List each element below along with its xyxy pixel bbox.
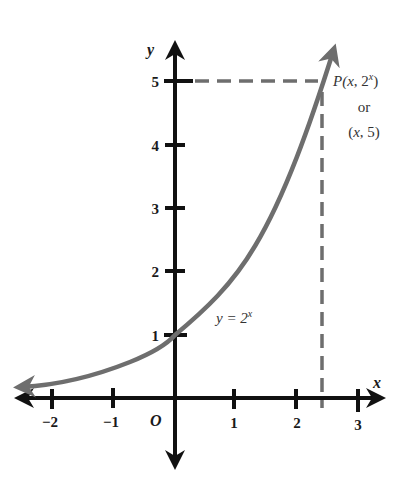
y-tick-labels: 1 2 3 4 5 <box>152 74 160 344</box>
point-label-line2: or <box>358 99 371 115</box>
y-axis-label: y <box>145 41 155 59</box>
y-tick-label: 4 <box>152 138 160 154</box>
y-tick-label: 2 <box>152 264 160 280</box>
x-axis <box>22 388 378 412</box>
x-tick-label: 3 <box>354 417 362 433</box>
x-tick-label: 1 <box>230 415 238 431</box>
x-tick-label: 2 <box>293 415 301 431</box>
x-tick-labels: −2 −1 1 2 3 <box>42 414 362 433</box>
exponential-graph: y x O −2 −1 1 2 3 1 2 3 4 5 y = 2x P(x, … <box>0 0 409 480</box>
y-tick-label: 3 <box>152 201 160 217</box>
y-tick-label: 1 <box>152 328 160 344</box>
x-axis-label: x <box>372 374 381 391</box>
y-ticks <box>164 81 193 335</box>
point-annotation: P(x, 2x) or (x, 5) <box>332 71 380 141</box>
y-tick-label: 5 <box>152 74 160 90</box>
x-tick-label: −2 <box>42 414 58 430</box>
point-label-line3: (x, 5) <box>348 124 380 141</box>
origin-label: O <box>150 412 162 429</box>
x-tick-label: −1 <box>103 414 119 430</box>
point-label-line1: P(x, 2x) <box>332 71 378 90</box>
curve-label: y = 2x <box>214 308 253 326</box>
